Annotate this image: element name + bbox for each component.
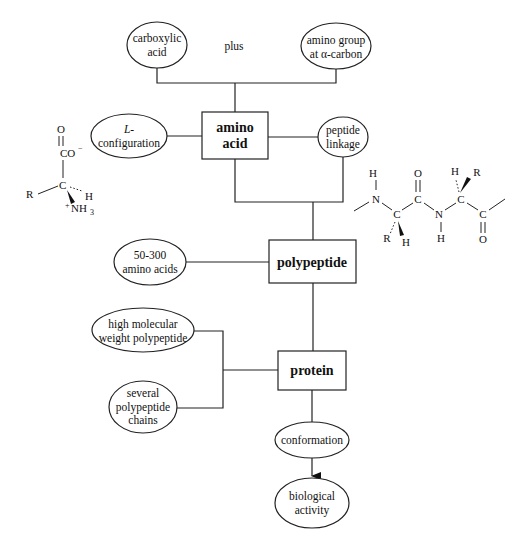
conformation-label: conformation	[281, 434, 343, 446]
pep-h1: H	[369, 167, 377, 179]
amino-group-line2: at α-carbon	[310, 48, 363, 60]
several-line1: several	[127, 387, 160, 399]
pep-ca1: C	[393, 208, 400, 220]
pep-n1: N	[372, 193, 380, 205]
node-several-chains: several polypeptide chains	[109, 381, 177, 433]
l-configuration-line1: L-	[123, 123, 134, 135]
pep-h2: H	[402, 236, 410, 248]
aa-charge-plus: +	[65, 201, 70, 210]
biological-activity-line1: biological	[289, 490, 335, 503]
pep-n2: N	[435, 208, 443, 220]
node-amino-acid: amino acid	[202, 112, 268, 159]
plus-label: plus	[224, 40, 244, 53]
high-mw-line2: weight polypeptide	[99, 332, 187, 345]
node-peptide-linkage: peptide linkage	[318, 117, 368, 157]
carboxylic-acid-line1: carboxylic	[133, 32, 182, 45]
amino-group-line1: amino group	[307, 34, 366, 47]
node-carboxylic-acid: carboxylic acid	[127, 22, 187, 68]
pep-o1: O	[414, 167, 422, 179]
node-l-configuration: L- configuration	[91, 114, 167, 158]
edge-carboxylic-to-junction	[157, 68, 336, 83]
node-protein: protein	[278, 351, 346, 390]
aa-hydrogen: H	[85, 190, 93, 202]
aa-r-group: R	[26, 188, 34, 200]
node-amino-group: amino group at α-carbon	[301, 23, 371, 69]
range-line2: amino acids	[122, 263, 178, 275]
aa-amino: NH	[71, 202, 87, 214]
peptide-linkage-line1: peptide	[326, 124, 360, 137]
node-conformation: conformation	[275, 422, 349, 458]
concept-map: carboxylic acid plus amino group at α-ca…	[0, 0, 527, 552]
several-line3: chains	[128, 414, 158, 426]
aa-alpha-carbon: C	[59, 179, 66, 191]
pep-carbonyl2: C	[479, 208, 486, 220]
high-mw-line1: high molecular	[108, 318, 177, 331]
pep-r1: R	[383, 232, 391, 244]
pep-o2: O	[479, 233, 487, 245]
aa-charge-minus: −	[78, 144, 83, 153]
edge-amino-acid-down	[235, 157, 343, 202]
pep-carbonyl1: C	[414, 193, 421, 205]
pep-h4: H	[451, 165, 459, 177]
several-line2: polypeptide	[116, 401, 170, 414]
node-range-amino-acids: 50-300 amino acids	[114, 239, 186, 285]
node-polypeptide: polypeptide	[269, 240, 356, 283]
pep-ca2: C	[457, 193, 464, 205]
peptide-linkage-line2: linkage	[326, 138, 360, 151]
amino-acid-structure: O CO − C R H + NH 3	[26, 123, 94, 217]
pep-r2: R	[473, 166, 481, 178]
protein-label: protein	[290, 363, 334, 378]
node-biological-activity: biological activity	[275, 478, 349, 528]
pep-h3: H	[437, 232, 445, 244]
aa-oxygen: O	[57, 123, 65, 135]
peptide-structure: H N C R H C O N H C H R C O	[354, 165, 505, 248]
amino-acid-line2: acid	[223, 136, 248, 151]
node-high-mw-polypeptide: high molecular weight polypeptide	[92, 308, 194, 352]
amino-acid-line1: amino	[216, 120, 253, 135]
l-configuration-line2: configuration	[98, 137, 160, 150]
aa-carboxylate: CO	[60, 147, 75, 159]
carboxylic-acid-line2: acid	[147, 46, 166, 58]
aa-amino-subscript: 3	[90, 208, 94, 217]
polypeptide-label: polypeptide	[277, 255, 347, 270]
biological-activity-line2: activity	[295, 504, 330, 517]
range-line1: 50-300	[134, 249, 167, 261]
